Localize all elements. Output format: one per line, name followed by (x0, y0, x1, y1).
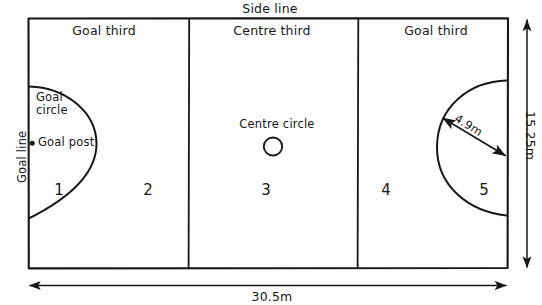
goal-post-marker (30, 141, 35, 146)
zone-number-4: 4 (381, 183, 391, 199)
third-label-left-goal-third: Goal third (72, 24, 136, 37)
right-goal-circle (437, 81, 507, 216)
side-line-label: Side line (242, 2, 297, 15)
zone-number-1: 1 (54, 183, 64, 199)
centre-circle (264, 138, 282, 156)
court-outline (29, 18, 509, 268)
zone-number-5: 5 (479, 183, 489, 199)
zone-number-3: 3 (261, 183, 271, 199)
goal-line-label: Goal line (16, 131, 28, 183)
third-label-right-goal-third: Goal third (404, 24, 468, 37)
court-length-label: 30.5m (251, 290, 292, 303)
netball-court-diagram: Side line Goal third Centre third Goal t… (0, 0, 542, 305)
court-width-label: 15.25m (524, 111, 537, 160)
goal-circle-label: Goal circle (36, 91, 68, 117)
centre-circle-label: Centre circle (239, 118, 314, 130)
goal-post-label: Goal post (38, 136, 94, 148)
court-drawing (0, 0, 542, 305)
goal-circle-label-line2: circle (36, 104, 68, 117)
third-divider-lines (189, 19, 359, 269)
goal-circle-label-line1: Goal (36, 91, 68, 104)
third-label-centre-third: Centre third (233, 24, 310, 37)
zone-number-2: 2 (143, 183, 153, 199)
